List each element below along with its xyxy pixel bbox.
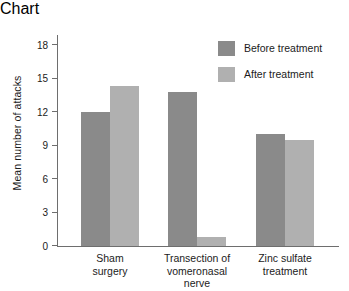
y-tick-label-6: 6 (42, 173, 48, 184)
legend-item-after: After treatment (218, 64, 322, 84)
y-tick-0: 0 (52, 245, 57, 246)
bar-before-group-2 (168, 92, 197, 246)
y-tick-18: 18 (52, 44, 57, 45)
bar-after-group-2 (197, 237, 226, 246)
y-tick-label-0: 0 (42, 240, 48, 251)
legend: Before treatmentAfter treatment (218, 38, 322, 90)
y-tick-label-3: 3 (42, 207, 48, 218)
legend-swatch-icon (218, 67, 235, 82)
y-tick-label-9: 9 (42, 140, 48, 151)
y-tick-15: 15 (52, 78, 57, 79)
x-axis-label-line: vomeronasal (147, 265, 247, 278)
y-tick-label-12: 12 (37, 106, 48, 117)
y-tick-9: 9 (52, 145, 57, 146)
y-axis-title-text: Mean number of attacks (11, 75, 23, 190)
y-tick-label-15: 15 (37, 73, 48, 84)
x-axis-label-group-1: Shamsurgery (60, 252, 160, 277)
x-axis-label-line: Zinc sulfate (235, 252, 335, 265)
bar-chart: Mean number of attacks 0369121518 Shamsu… (0, 18, 349, 291)
bar-after-group-1 (110, 86, 139, 246)
legend-swatch-icon (218, 41, 235, 56)
y-axis-line (57, 35, 58, 247)
bar-after-group-3 (285, 140, 314, 246)
x-axis-label-group-3: Zinc sulfatetreatment (235, 252, 335, 277)
x-axis-label-line: surgery (60, 265, 160, 278)
y-tick-3: 3 (52, 212, 57, 213)
y-axis-title: Mean number of attacks (9, 18, 25, 247)
bar-before-group-1 (81, 112, 110, 246)
x-axis-label-line: Sham (60, 252, 160, 265)
y-tick-6: 6 (52, 178, 57, 179)
x-axis-line (57, 246, 339, 247)
legend-item-before: Before treatment (218, 38, 322, 58)
y-tick-label-18: 18 (37, 39, 48, 50)
x-axis-label-line: nerve (147, 277, 247, 290)
x-axis-label-line: Transection of (147, 252, 247, 265)
x-axis-label-group-2: Transection ofvomeronasalnerve (147, 252, 247, 290)
legend-label: Before treatment (244, 42, 322, 54)
legend-label: After treatment (244, 68, 313, 80)
y-tick-12: 12 (52, 111, 57, 112)
x-axis-label-line: treatment (235, 265, 335, 278)
bar-before-group-3 (256, 134, 285, 246)
